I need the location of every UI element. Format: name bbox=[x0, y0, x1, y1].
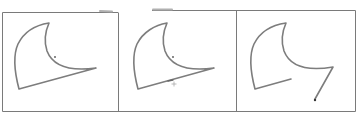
panel-1-shape-outline bbox=[15, 23, 96, 89]
panel-2 bbox=[134, 23, 214, 89]
panel-2-center-dot bbox=[172, 56, 174, 58]
panel-3 bbox=[251, 23, 333, 101]
panel-2-shape-outline bbox=[134, 23, 214, 89]
panel-3-end-dot bbox=[314, 99, 316, 101]
panel-3-shape-outline bbox=[251, 23, 333, 99]
three-panel-sketch-diagram bbox=[0, 0, 360, 115]
panel-2-plus-marker-icon bbox=[172, 82, 177, 87]
panel-2-edge-mark bbox=[168, 80, 173, 81]
panel-1-center-dot bbox=[54, 56, 56, 58]
outer-frame bbox=[3, 10, 356, 112]
panel-1 bbox=[15, 23, 96, 89]
top-smudge-1 bbox=[100, 11, 112, 12]
